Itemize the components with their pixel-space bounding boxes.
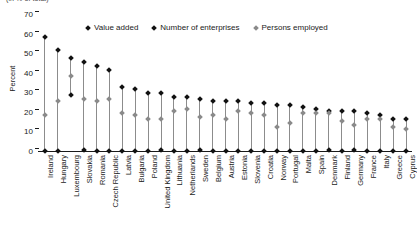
diamond-marker xyxy=(261,149,267,155)
connector-stem xyxy=(109,70,110,151)
y-tick-label: 40 xyxy=(24,69,33,78)
x-tick-label: Slovenia xyxy=(254,155,262,184)
y-tick-20: 20 xyxy=(0,109,33,117)
diamond-marker xyxy=(313,110,319,116)
diamond-marker xyxy=(145,116,151,122)
y-tick-label: 20 xyxy=(24,108,33,117)
y-tick-60: 60 xyxy=(0,31,33,39)
diamond-marker xyxy=(132,112,138,118)
diamond-marker xyxy=(81,96,87,102)
diamond-marker xyxy=(287,149,293,155)
y-tick-50: 50 xyxy=(0,50,33,58)
y-tick-label: 10 xyxy=(24,127,33,136)
diamond-marker xyxy=(261,100,267,106)
x-tick-label: Slovakia xyxy=(86,155,94,183)
diamond-marker xyxy=(197,114,203,120)
diamond-marker xyxy=(326,148,332,154)
connector-stem xyxy=(135,89,136,151)
diamond-marker xyxy=(81,59,87,65)
diamond-marker xyxy=(68,92,74,98)
diamond-marker xyxy=(132,87,138,93)
diamond-marker xyxy=(94,148,100,154)
x-tick-label: Portugal xyxy=(292,155,300,183)
x-tick-label: Denmark xyxy=(331,155,339,185)
x-tick-label: France xyxy=(370,155,378,178)
diamond-marker xyxy=(365,148,371,154)
diamond-marker xyxy=(248,100,254,106)
diamond-marker xyxy=(365,116,371,122)
diamond-marker xyxy=(300,148,306,154)
diamond-marker xyxy=(171,94,177,100)
diamond-marker xyxy=(119,148,125,154)
y-tick-40: 40 xyxy=(0,70,33,78)
x-tick-label: Estonia xyxy=(241,155,249,180)
x-tick-label: Ireland xyxy=(47,155,55,178)
x-tick-label: Bulgaria xyxy=(138,155,146,183)
diamond-marker xyxy=(248,110,254,116)
connector-stem xyxy=(328,111,329,151)
diamond-marker xyxy=(223,148,229,154)
diamond-marker xyxy=(107,96,113,102)
diamond-marker xyxy=(300,110,306,116)
diamond-marker xyxy=(119,85,125,91)
diamond-marker xyxy=(377,116,383,122)
diamond-marker xyxy=(42,34,48,40)
diamond-marker xyxy=(403,116,409,122)
y-tick-10: 10 xyxy=(0,128,33,136)
diamond-marker xyxy=(184,148,190,154)
diamond-marker xyxy=(326,110,332,116)
x-tick-label: Norway xyxy=(280,155,288,180)
diamond-marker xyxy=(68,55,74,61)
diamond-marker xyxy=(339,118,345,124)
diamond-marker xyxy=(339,108,345,114)
diamond-marker xyxy=(274,124,280,130)
diamond-marker xyxy=(274,148,280,154)
x-tick-label: Greece xyxy=(396,155,404,180)
diamond-marker xyxy=(377,149,383,155)
x-tick-label: Hungary xyxy=(60,155,68,183)
diamond-marker xyxy=(313,148,319,154)
x-tick-label: Czech Republic xyxy=(112,155,120,208)
diamond-marker xyxy=(197,96,203,102)
x-tick-label: Spain xyxy=(318,155,326,174)
x-tick-label: Romania xyxy=(99,155,107,185)
x-tick-label: Italy xyxy=(383,155,391,169)
diamond-marker xyxy=(81,148,87,154)
diamond-marker xyxy=(352,108,358,114)
diamond-marker xyxy=(184,106,190,112)
diamond-marker xyxy=(210,98,216,104)
diamond-marker xyxy=(403,148,409,154)
x-tick-label: Austria xyxy=(228,155,236,178)
x-tick-label: United Kingdom xyxy=(164,155,172,208)
diamond-marker xyxy=(287,102,293,108)
connector-stem xyxy=(225,101,226,151)
diamond-marker xyxy=(248,148,254,154)
diamond-marker xyxy=(145,149,151,155)
diamond-marker xyxy=(158,148,164,154)
diamond-marker xyxy=(352,122,358,128)
diamond-marker xyxy=(390,116,396,122)
diamond-marker xyxy=(236,148,242,154)
connector-stem xyxy=(354,111,355,151)
x-tick-label: Belgium xyxy=(215,155,223,182)
diamond-marker xyxy=(403,126,409,132)
diamond-marker xyxy=(210,148,216,154)
x-axis-labels: IrelandHungaryLuxembourgSlovakiaRomaniaC… xyxy=(38,155,412,239)
diamond-marker xyxy=(132,149,138,155)
diamond-marker xyxy=(158,90,164,96)
connector-stem xyxy=(96,66,97,151)
x-tick-label: Lithuania xyxy=(176,155,184,185)
x-tick-label: Sweden xyxy=(202,155,210,182)
diamond-marker xyxy=(223,98,229,104)
diamond-marker xyxy=(390,149,396,155)
connector-stem xyxy=(148,93,149,151)
connector-stem xyxy=(406,119,407,151)
connector-stem xyxy=(289,105,290,151)
diamond-marker xyxy=(210,112,216,118)
diamond-marker xyxy=(274,102,280,108)
diamond-marker xyxy=(339,148,345,154)
diamond-marker xyxy=(55,98,61,104)
connector-stem xyxy=(212,101,213,151)
x-tick-label: Croatia xyxy=(267,155,275,179)
diamond-marker xyxy=(236,108,242,114)
